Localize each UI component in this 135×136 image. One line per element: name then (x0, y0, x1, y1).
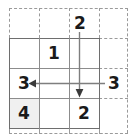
down-arrow-col3 (76, 32, 84, 98)
clue-number-top-col3: 2 (65, 8, 95, 38)
dashed-gridline-h-3 (99, 98, 128, 99)
dashed-gridline-v-1-top (39, 8, 40, 38)
cell-number-r3c3: 2 (69, 98, 99, 128)
cell-number-r3c1: 4 (9, 98, 39, 128)
dashed-gridline-h-1 (99, 38, 128, 39)
clue-number-right-row2: 3 (99, 68, 129, 98)
cell-number-r1c2: 1 (39, 38, 69, 68)
puzzle-canvas: 1 3 4 2 2 3 (0, 0, 135, 136)
dashed-gridline-v-3-top (99, 8, 100, 38)
dashed-gridline-v-0-top (9, 8, 10, 38)
grid-line-h-3 (9, 128, 100, 129)
cell-number-r2c1: 3 (9, 68, 39, 98)
